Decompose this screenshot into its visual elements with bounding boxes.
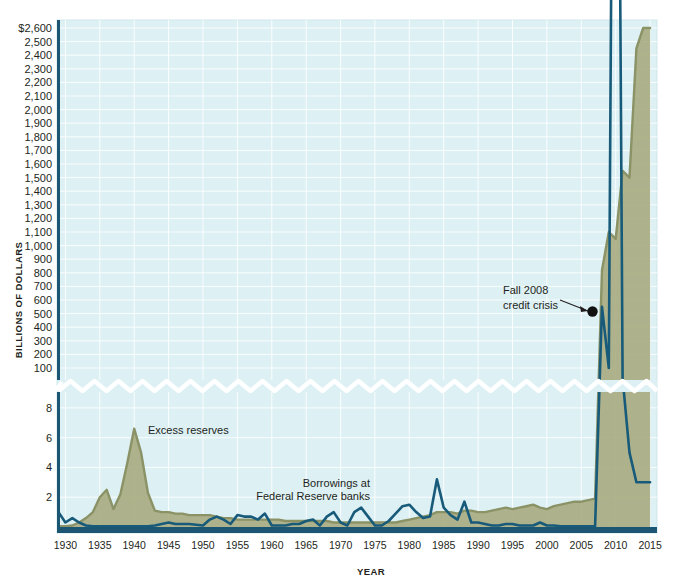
y-tick-1000: 1,000 <box>24 240 52 252</box>
y-tick-2000: 2,000 <box>24 104 52 116</box>
y-tick-100: 100 <box>34 362 52 374</box>
y-tick-300: 300 <box>34 335 52 347</box>
x-axis-tick-labels: 1930193519401945195019551960196519701975… <box>54 539 662 551</box>
y-tick-400: 400 <box>34 321 52 333</box>
y-axis-title: BILLIONS OF DOLLARS <box>13 242 24 358</box>
credit-crisis-annotation-line2: credit crisis <box>503 299 559 311</box>
y-tick-600: 600 <box>34 294 52 306</box>
x-axis-title: YEAR <box>357 566 385 577</box>
y-tick-2600: $2,600 <box>18 22 52 34</box>
y-tick-2500: 2,500 <box>24 36 52 48</box>
y-tick-1900: 1,900 <box>24 117 52 129</box>
borrowings-annotation-line2: Federal Reserve banks <box>256 490 370 502</box>
x-tick-2015: 2015 <box>638 539 662 551</box>
y-tick-500: 500 <box>34 308 52 320</box>
x-tick-1950: 1950 <box>191 539 215 551</box>
x-tick-2005: 2005 <box>570 539 594 551</box>
y-tick-200: 200 <box>34 348 52 360</box>
x-tick-1930: 1930 <box>54 539 78 551</box>
chart-container: $2,6002,5002,4002,3002,2002,1002,0001,90… <box>0 0 684 584</box>
x-tick-1940: 1940 <box>123 539 147 551</box>
y-tick-1500: 1,500 <box>24 172 52 184</box>
x-tick-1990: 1990 <box>466 539 490 551</box>
y-tick-1600: 1,600 <box>24 158 52 170</box>
y-tick-1400: 1,400 <box>24 185 52 197</box>
x-tick-1945: 1945 <box>157 539 181 551</box>
y-tick-700: 700 <box>34 280 52 292</box>
x-tick-1960: 1960 <box>260 539 284 551</box>
y-tick-2300: 2,300 <box>24 63 52 75</box>
y-tick-1100: 1,100 <box>24 226 52 238</box>
x-tick-1995: 1995 <box>501 539 525 551</box>
federal-reserve-chart: $2,6002,5002,4002,3002,2002,1002,0001,90… <box>0 0 684 584</box>
y-tick-1300: 1,300 <box>24 199 52 211</box>
credit-crisis-annotation-line1: Fall 2008 <box>503 284 548 296</box>
x-tick-1980: 1980 <box>398 539 422 551</box>
y-tick-1200: 1,200 <box>24 212 52 224</box>
y-tick-800: 800 <box>34 267 52 279</box>
y-axis-tick-labels-lower: 8642 <box>46 402 52 503</box>
baseline-band <box>57 527 657 533</box>
plot-background <box>57 20 657 533</box>
excess-reserves-annotation: Excess reserves <box>148 424 229 436</box>
y-tick-2100: 2,100 <box>24 90 52 102</box>
x-tick-1975: 1975 <box>363 539 387 551</box>
y-tick-2200: 2,200 <box>24 76 52 88</box>
credit-crisis-marker-dot <box>587 306 597 316</box>
y-tick-1800: 1,800 <box>24 131 52 143</box>
y-tick-2400: 2,400 <box>24 49 52 61</box>
y-tick-2: 2 <box>46 491 52 503</box>
x-tick-1935: 1935 <box>88 539 112 551</box>
axis-break-zigzag <box>55 380 657 392</box>
y-tick-1700: 1,700 <box>24 144 52 156</box>
y-tick-900: 900 <box>34 253 52 265</box>
x-tick-2010: 2010 <box>604 539 628 551</box>
x-tick-1965: 1965 <box>295 539 319 551</box>
x-tick-1985: 1985 <box>432 539 456 551</box>
x-tick-2000: 2000 <box>535 539 559 551</box>
y-tick-4: 4 <box>46 461 52 473</box>
y-tick-6: 6 <box>46 432 52 444</box>
x-tick-1955: 1955 <box>226 539 250 551</box>
y-tick-8: 8 <box>46 402 52 414</box>
borrowings-annotation-line1: Borrowings at <box>303 477 370 489</box>
x-tick-1970: 1970 <box>329 539 353 551</box>
